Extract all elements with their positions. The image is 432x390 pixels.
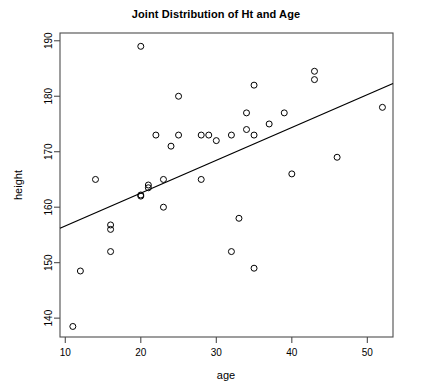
x-tick-label: 40 — [286, 347, 298, 358]
data-point — [228, 132, 234, 138]
y-tick-label: 140 — [43, 309, 54, 326]
data-point — [281, 110, 287, 116]
y-tick-label: 170 — [43, 143, 54, 160]
data-point — [244, 110, 250, 116]
x-tick-label: 10 — [60, 347, 72, 358]
scatter-plot-figure: Joint Distribution of Ht and Age 1401501… — [0, 0, 432, 390]
data-point — [236, 215, 242, 221]
plot-frame-group — [60, 33, 393, 337]
data-point — [198, 176, 204, 182]
data-point — [168, 143, 174, 149]
data-point — [198, 132, 204, 138]
data-point — [160, 176, 166, 182]
data-point — [92, 176, 98, 182]
data-point — [251, 132, 257, 138]
y-tick-label: 180 — [43, 87, 54, 104]
x-axis-title: age — [217, 369, 235, 381]
data-points-group — [70, 43, 386, 329]
plot-frame — [60, 33, 393, 337]
data-point — [311, 77, 317, 83]
data-point — [70, 323, 76, 329]
data-point — [311, 68, 317, 74]
data-point — [77, 268, 83, 274]
data-point — [379, 104, 385, 110]
data-point — [108, 249, 114, 255]
data-point — [213, 138, 219, 144]
data-point — [251, 82, 257, 88]
y-axis-title: height — [12, 170, 24, 200]
data-point — [266, 121, 272, 127]
data-point — [160, 204, 166, 210]
x-axis-ticks: 1020304050 — [60, 337, 374, 358]
data-point — [176, 93, 182, 99]
data-point — [176, 132, 182, 138]
data-point — [251, 265, 257, 271]
data-point — [228, 249, 234, 255]
x-tick-label: 30 — [211, 347, 223, 358]
x-tick-label: 20 — [135, 347, 147, 358]
data-point — [289, 171, 295, 177]
y-tick-label: 150 — [43, 254, 54, 271]
x-tick-label: 50 — [362, 347, 374, 358]
y-tick-label: 160 — [43, 198, 54, 215]
regression-line — [60, 83, 393, 228]
plot-canvas: 140150160170180190 1020304050 age height — [0, 0, 432, 390]
data-point — [108, 222, 114, 228]
data-point — [138, 43, 144, 49]
y-axis-ticks: 140150160170180190 — [43, 32, 60, 326]
data-point — [153, 132, 159, 138]
y-tick-label: 190 — [43, 32, 54, 49]
data-point — [334, 154, 340, 160]
data-point — [206, 132, 212, 138]
data-point — [244, 127, 250, 133]
